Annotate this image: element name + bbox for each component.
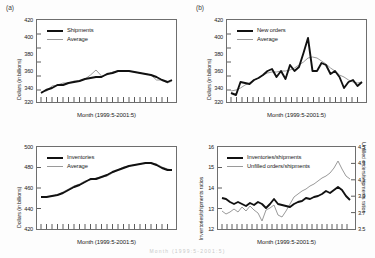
- panel-b-ytick: 360: [207, 68, 223, 74]
- line-swatch-icon: [47, 157, 63, 159]
- panel-d-legend: Inventories/shipments Unfilled orders/sh…: [227, 154, 310, 172]
- panel-b-label: (b): [196, 4, 204, 11]
- panel-d-ytick: 13: [204, 206, 214, 212]
- panel-d-ytick: 14: [204, 185, 214, 191]
- legend-item: Average: [237, 36, 286, 43]
- panel-b-ytick: 380: [207, 51, 223, 57]
- panel-d: Inventories/shipments ratios Unfilled or…: [188, 130, 375, 258]
- legend-label: Unfilled orders/shipments: [247, 163, 310, 170]
- panel-d-ytick-right: 4.1: [358, 177, 372, 183]
- panel-b-ytick: 420: [207, 17, 223, 23]
- legend-item: Inventories/shipments: [227, 154, 310, 161]
- panel-d-ytick: 12: [204, 226, 214, 232]
- line-swatch-icon: [47, 30, 63, 32]
- panel-b-ytick: 320: [207, 99, 223, 105]
- panel-a-ylabel: Dollars (in billions): [16, 59, 22, 100]
- panel-d-ytick-right: 3.9: [358, 193, 372, 199]
- legend-label: Average: [257, 36, 278, 43]
- panel-a-ytick: 420: [17, 17, 33, 23]
- panel-d-ytick-right: 4.3: [358, 160, 372, 166]
- legend-label: Average: [67, 36, 88, 43]
- panel-a-xlabel: Month (1999:5-2001:5): [36, 112, 177, 118]
- panel-a-ytick: 320: [17, 99, 33, 105]
- line-swatch-icon: [237, 39, 253, 40]
- line-swatch-icon: [47, 39, 63, 40]
- legend-label: New orders: [257, 27, 286, 34]
- panel-d-ytick-right: 3.7: [358, 210, 372, 216]
- page-footer-ghost: Month (1999:5-2001:5): [0, 248, 375, 258]
- panel-c-ytick: 480: [17, 164, 33, 170]
- panel-c-legend: Inventories Average: [47, 154, 94, 172]
- legend-item: Average: [47, 36, 94, 43]
- panel-d-xlabel: Month (1999:5-2001:5): [217, 239, 356, 245]
- panel-b-ylabel: Dollars (in billions): [206, 59, 212, 100]
- line-swatch-icon: [47, 166, 63, 167]
- panel-b: (b) Dollars (in billions) 420 400 380 36…: [188, 0, 374, 128]
- panel-d-ytick-right: 3.5: [358, 226, 372, 232]
- panel-a: (a) Dollars (in billions) 420 400 380 36…: [0, 0, 186, 128]
- panel-c: Dollars (in billions) 500 480 460 440 42…: [0, 130, 186, 258]
- panel-d-ytick: 16: [204, 144, 214, 150]
- line-swatch-icon: [237, 30, 253, 32]
- legend-item: New orders: [237, 27, 286, 34]
- legend-item: Shipments: [47, 27, 94, 34]
- panel-c-ytick: 500: [17, 144, 33, 150]
- line-swatch-icon: [227, 166, 243, 167]
- panel-a-ytick: 380: [17, 51, 33, 57]
- legend-item: Unfilled orders/shipments: [227, 163, 310, 170]
- panel-a-label: (a): [6, 4, 14, 11]
- panel-b-ytick: 400: [207, 34, 223, 40]
- legend-item: Average: [47, 163, 94, 170]
- legend-label: Shipments: [67, 27, 94, 34]
- panel-c-ytick: 460: [17, 185, 33, 191]
- panel-d-ytick-right: 4.5: [358, 144, 372, 150]
- panel-a-ytick: 400: [17, 34, 33, 40]
- panel-c-ytick: 440: [17, 206, 33, 212]
- legend-label: Inventories: [67, 154, 94, 161]
- panel-a-ytick: 360: [17, 68, 33, 74]
- panel-b-legend: New orders Average: [237, 27, 286, 45]
- panel-a-legend: Shipments Average: [47, 27, 94, 45]
- panel-b-ytick: 340: [207, 85, 223, 91]
- figure-page: (a) Dollars (in billions) 420 400 380 36…: [0, 0, 375, 258]
- line-swatch-icon: [227, 157, 243, 159]
- legend-item: Inventories: [47, 154, 94, 161]
- panel-a-ytick: 340: [17, 85, 33, 91]
- legend-label: Average: [67, 163, 88, 170]
- panel-b-xlabel: Month (1999:5-2001:5): [226, 112, 367, 118]
- panel-c-ytick: 420: [17, 226, 33, 232]
- panel-c-xlabel: Month (1999:5-2001:5): [36, 239, 177, 245]
- legend-label: Inventories/shipments: [247, 154, 301, 161]
- panel-d-ytick: 15: [204, 164, 214, 170]
